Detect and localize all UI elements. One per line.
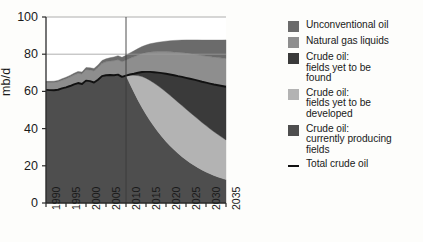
legend-line-marker-icon [288,160,299,171]
y-tick-label-60: 60 [4,85,38,98]
legend-label: Crude oil:fields yet to bedeveloped [306,88,371,120]
legend-swatch-icon [288,37,299,48]
y-tick-label-100: 100 [4,11,38,24]
legend-item-unconventional-oil: Unconventional oil [288,20,421,32]
y-tick-label-80: 80 [4,48,38,61]
y-tick-label-40: 40 [4,123,38,136]
legend-item-natural-gas-liquids: Natural gas liquids [288,36,421,48]
legend-label: Crude oil:fields yet to befound [306,52,371,84]
legend-item-total-crude-oil: Total crude oil [288,159,421,171]
y-tick-label-0: 0 [4,197,38,210]
x-tick-label-2025: 2025 [191,187,202,210]
x-tick-label-2030: 2030 [211,187,222,210]
x-tick-label-2000: 2000 [91,187,102,210]
x-tick-label-1995: 1995 [71,187,82,210]
x-tick-label-2005: 2005 [111,187,122,210]
legend-label: Total crude oil [306,159,368,170]
x-tick-label-2015: 2015 [151,187,162,210]
legend-swatch-icon [288,89,299,100]
legend-label: Unconventional oil [306,20,388,31]
chart-legend: Unconventional oilNatural gas liquidsCru… [288,20,421,175]
legend-swatch-icon [288,53,299,64]
x-tick-label-2035: 2035 [231,187,242,210]
x-tick-label-2010: 2010 [131,187,142,210]
y-tick-label-20: 20 [4,160,38,173]
legend-item-crude-oil-yet-to-be-found: Crude oil:fields yet to befound [288,52,421,84]
x-tick-label-2020: 2020 [171,187,182,210]
x-tick-label-1990: 1990 [51,187,62,210]
legend-item-crude-oil-yet-to-be-developed: Crude oil:fields yet to bedeveloped [288,88,421,120]
legend-swatch-icon [288,125,299,136]
oil-supply-area-chart: mb/d 020406080100 1990199520002005201020… [0,0,423,242]
legend-item-crude-oil-currently-producing: Crude oil:currently producingfields [288,124,421,156]
legend-swatch-icon [288,21,299,32]
legend-label: Natural gas liquids [306,36,389,47]
legend-label: Crude oil:currently producingfields [306,124,392,156]
